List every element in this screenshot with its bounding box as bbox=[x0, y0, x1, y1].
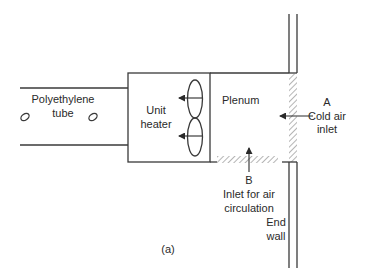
wall-label-line2: wall bbox=[266, 230, 286, 242]
heater-label-line1: Unit bbox=[146, 104, 166, 116]
heater-plenum-diagram: Polyethylene tube Unit heater Plenum B I… bbox=[0, 0, 367, 280]
inlet-a-letter: A bbox=[323, 96, 331, 108]
inlet-a-hatch bbox=[289, 73, 297, 162]
fan-blade-icon bbox=[188, 80, 203, 118]
tube-hole-icon bbox=[88, 112, 99, 122]
polyethylene-tube: Polyethylene tube bbox=[20, 88, 128, 145]
plenum-label: Plenum bbox=[222, 94, 259, 106]
inlet-b-label-line1: Inlet for air bbox=[223, 188, 275, 200]
wall-label-line1: End bbox=[266, 216, 286, 228]
figure-caption: (a) bbox=[161, 243, 174, 255]
end-wall: End wall bbox=[266, 14, 297, 268]
inlet-b-hatch bbox=[217, 156, 278, 163]
tube-hole-icon bbox=[20, 112, 31, 122]
inlet-b-letter: B bbox=[245, 174, 252, 186]
heater-label-line2: heater bbox=[140, 118, 172, 130]
inlet-b: B Inlet for air circulation bbox=[217, 148, 278, 214]
inlet-a-label-line1: Cold air bbox=[308, 110, 346, 122]
tube-label-line1: Polyethylene bbox=[32, 93, 95, 105]
fan-blade-icon bbox=[188, 118, 203, 156]
inlet-a-label-line2: inlet bbox=[317, 123, 337, 135]
inlet-b-label-line2: circulation bbox=[224, 202, 274, 214]
unit-heater: Unit heater bbox=[128, 73, 210, 162]
tube-label-line2: tube bbox=[52, 107, 73, 119]
